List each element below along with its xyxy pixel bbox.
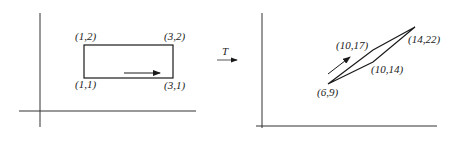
vertex-label-10-14: (10,14) [371, 63, 403, 76]
vertex-label-14-22: (14,22) [408, 33, 440, 46]
transformation-diagram: (1,2) (3,2) (1,1) (3,1) T (6,9) (10,17) … [0, 0, 455, 156]
codomain-parallelogram [328, 27, 415, 84]
codomain-plot: (6,9) (10,17) (14,22) (10,14) [256, 13, 440, 128]
vertex-label-6-9: (6,9) [317, 86, 338, 99]
vertex-label-3-1: (3,1) [164, 79, 185, 92]
codomain-direction-arrow [328, 57, 350, 74]
vertex-label-1-1: (1,1) [75, 78, 96, 91]
transform-label: T [222, 45, 229, 57]
vertex-label-3-2: (3,2) [164, 30, 185, 43]
transform-mapping: T [217, 45, 237, 60]
vertex-label-1-2: (1,2) [75, 30, 96, 43]
vertex-label-10-17: (10,17) [336, 39, 368, 52]
domain-plot: (1,2) (3,2) (1,1) (3,1) [19, 13, 196, 127]
